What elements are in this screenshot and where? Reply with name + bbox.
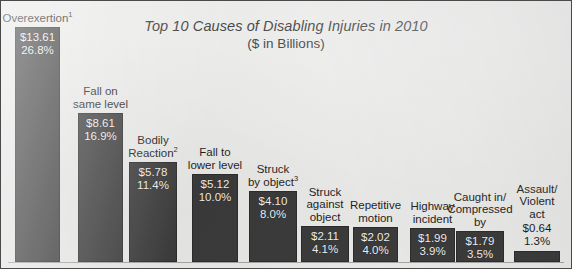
bar-category-label-line: act: [517, 208, 558, 221]
bar-group-struck-against-object: Struckagainstobject$2.114.1%: [301, 156, 349, 262]
bar-category-label-line: by object3: [248, 176, 298, 189]
bar-group-repetitive-motion: Repetitivemotion$2.024.0%: [353, 157, 398, 262]
bar-group-fall-on-same-level: Fall onsame level$8.6116.9%: [78, 43, 123, 262]
bar-category-label-line: Compressed: [447, 203, 512, 216]
bar-percent-label-struck-by-object: 8.0%: [249, 208, 297, 221]
plot-area: Overexertion1$13.6126.8%Fall onsame leve…: [1, 1, 571, 268]
bar-percent-label-assault-violent-act: 1.3%: [524, 235, 550, 248]
bar-category-label-caught-in-compressed-by: Caught in/Compressedby: [447, 191, 512, 229]
bar-value-label-fall-to-lower-level: $5.12: [192, 178, 238, 191]
bar-category-label-line: Caught in/: [447, 191, 512, 204]
bar-percent-label-highway-incident: 3.9%: [410, 245, 455, 258]
chart-figure: Top 10 Causes of Disabling Injuries in 2…: [0, 0, 572, 269]
bar-category-label-line: Bodily: [128, 134, 178, 147]
bar-category-label-fall-on-same-level: Fall onsame level: [73, 85, 128, 110]
bar-percent-label-overexertion: 26.8%: [15, 44, 60, 57]
bar-overexertion: [15, 27, 60, 262]
bar-category-label-line: Repetitive: [350, 199, 401, 212]
footnote-marker: 3: [294, 174, 298, 183]
footnote-marker: 2: [174, 145, 178, 154]
bar-value-label-fall-on-same-level: $8.61: [78, 117, 123, 130]
bar-value-label-caught-in-compressed-by: $1.79: [456, 235, 504, 248]
bar-percent-label-struck-against-object: 4.1%: [301, 243, 349, 256]
bar-group-assault-violent-act: Assault/Violentact$0.641.3%: [514, 181, 560, 262]
bar-category-label-line: Violent: [517, 195, 558, 208]
bar-value-label-assault-violent-act: $0.64: [523, 222, 552, 235]
bar-value-label-bodily-reaction: $5.78: [129, 166, 177, 179]
bar-category-label-line: lower level: [188, 159, 242, 172]
bar-percent-label-bodily-reaction: 11.4%: [129, 179, 177, 192]
footnote-marker: 1: [68, 10, 72, 19]
bar-assault-violent-act: [514, 251, 560, 262]
bar-category-label-line: Overexertion1: [2, 12, 72, 25]
bar-category-label-line: Fall on: [73, 85, 128, 98]
bar-percent-label-caught-in-compressed-by: 3.5%: [456, 248, 504, 261]
bar-category-label-struck-against-object: Struckagainstobject: [306, 186, 343, 224]
bar-category-label-overexertion: Overexertion1: [2, 12, 72, 25]
bar-value-label-struck-by-object: $4.10: [249, 195, 297, 208]
bar-value-label-struck-against-object: $2.11: [301, 230, 349, 243]
bar-percent-label-fall-to-lower-level: 10.0%: [192, 191, 238, 204]
bar-category-label-line: Assault/: [517, 183, 558, 196]
bar-value-label-repetitive-motion: $2.02: [353, 231, 398, 244]
bar-group-caught-in-compressed-by: Caught in/Compressedby$1.793.5%: [456, 161, 504, 262]
bar-category-label-line: Reaction2: [128, 147, 178, 160]
baseline-rule: [8, 262, 564, 263]
bar-category-label-repetitive-motion: Repetitivemotion: [350, 199, 401, 224]
bar-category-label-assault-violent-act: Assault/Violentact: [517, 183, 558, 221]
bar-value-label-overexertion: $13.61: [15, 31, 60, 44]
bar-category-label-line: motion: [350, 212, 401, 225]
bar-group-struck-by-object: Struckby object3$4.108.0%: [249, 121, 297, 262]
bar-group-bodily-reaction: BodilyReaction2$5.7811.4%: [129, 92, 177, 262]
bar-category-label-line: object: [306, 211, 343, 224]
bar-group-overexertion: Overexertion1$13.6126.8%: [15, 0, 60, 262]
bar-category-label-line: against: [306, 198, 343, 211]
bar-value-label-highway-incident: $1.99: [410, 232, 455, 245]
bar-category-label-struck-by-object: Struckby object3: [248, 163, 298, 188]
bar-category-label-bodily-reaction: BodilyReaction2: [128, 134, 178, 159]
bar-group-fall-to-lower-level: Fall tolower level$5.1210.0%: [192, 104, 238, 262]
bar-category-label-line: same level: [73, 98, 128, 111]
bar-category-label-line: Struck: [248, 163, 298, 176]
bar-category-label-line: by: [447, 216, 512, 229]
bar-category-label-line: Fall to: [188, 146, 242, 159]
bar-category-label-fall-to-lower-level: Fall tolower level: [188, 146, 242, 171]
bar-category-label-line: Struck: [306, 186, 343, 199]
bar-percent-label-repetitive-motion: 4.0%: [353, 244, 398, 257]
bar-percent-label-fall-on-same-level: 16.9%: [78, 130, 123, 143]
